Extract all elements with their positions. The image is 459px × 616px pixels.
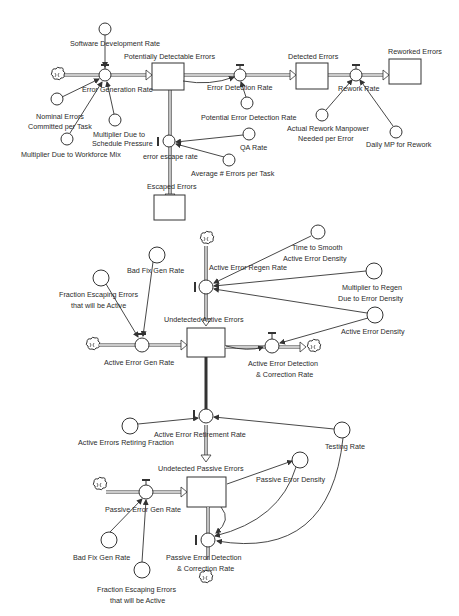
label-error-detection-rate: Error Detection Rate [207,83,273,92]
label-passive-error-detection-1: Passive Error Detection [166,553,242,562]
aux-multiplier-workforce-mix[interactable] [61,133,73,145]
label-active-error-density: Active Error Density [341,327,405,336]
label-potential-error-detection-rate: Potential Error Detection Rate [201,113,296,122]
label-software-development-rate: Software Development Rate [70,39,160,48]
label-time-to-smooth-2: Active Error Density [283,254,347,263]
label-error-escape-rate: error escape rate [143,152,198,161]
label-multiplier-regen-1: Multiplier to Regen [342,283,402,292]
valve-active-error-detection-rate[interactable] [265,332,279,353]
valve-error-escape-rate[interactable] [157,135,175,147]
label-fraction-escaping-1: Fraction Escaping Errors [59,290,138,299]
label-reworked-errors: Reworked Errors [388,47,442,56]
label-multiplier-regen-2: Due to Error Density [338,294,404,303]
aux-passive-error-density[interactable] [292,452,308,468]
label-passive-error-detection-2: & Correction Rate [177,564,234,573]
cloud-regen-source-icon [200,231,214,244]
valve-error-detection-rate[interactable] [234,64,246,81]
label-active-error-detection-1: Active Error Detection [248,359,318,368]
valve-passive-error-detection-rate[interactable] [195,533,215,547]
aux-active-errors-retiring-fraction[interactable] [122,418,138,434]
aux-testing-rate[interactable] [334,422,350,438]
stock-potentially-detectable-errors[interactable] [152,63,184,90]
valve-active-error-retirement-rate[interactable] [193,409,213,423]
label-nominal-errors-1: Nominal Errors [36,112,84,121]
label-nominal-errors-2: Committed per Task [28,122,92,131]
aux-qa-rate[interactable] [243,128,255,140]
stock-flow-diagram: Software Development Rate Potentially De… [0,0,459,616]
label-multiplier-workforce-mix: Multiplier Due to Workforce Mix [21,150,121,159]
aux-actual-rework-manpower[interactable] [316,109,328,121]
stock-undetected-active-errors[interactable] [187,328,225,357]
label-active-errors-retiring-fraction: Active Errors Retiring Fraction [78,438,174,447]
aux-fraction-escaping-passive[interactable] [134,562,150,578]
label-active-error-detection-2: & Correction Rate [256,370,313,379]
stock-detected-errors[interactable] [296,63,328,89]
aux-multiplier-regen[interactable] [366,263,382,279]
label-testing-rate: Testing Rate [325,442,365,451]
valve-active-error-regen-rate[interactable] [194,280,213,294]
aux-average-errors-per-task[interactable] [223,154,235,166]
label-undetected-passive-errors: Undetected Passive Errors [158,464,244,473]
aux-multiplier-schedule-pressure[interactable] [109,114,121,126]
label-fraction-escaping-2: that will be Active [71,301,126,310]
label-rework-rate: Rework Rate [338,84,380,93]
label-fraction-escaping-passive-1: Fraction Escaping Errors [97,585,176,594]
cloud-source-icon [51,67,65,80]
label-time-to-smooth-1: Time to Smooth [292,243,342,252]
label-multiplier-schedule-2: Schedule Pressure [92,139,153,148]
cloud-active-gen-source-icon [86,337,100,350]
label-actual-rework-1: Actual Rework Manpower [287,124,369,133]
label-active-error-gen-rate: Active Error Gen Rate [104,358,174,367]
label-active-error-regen-rate: Active Error Regen Rate [209,263,287,272]
aux-bad-fix-gen-rate[interactable] [149,247,165,263]
label-daily-mp-rework: Daily MP for Rework [366,140,432,149]
label-potentially-detectable-errors: Potentially Detectable Errors [124,52,215,61]
stock-undetected-passive-errors[interactable] [187,477,226,507]
label-qa-rate: QA Rate [240,143,267,152]
label-actual-rework-2: Needed per Error [298,134,354,143]
cloud-passive-gen-source-icon [93,477,107,490]
aux-active-error-density[interactable] [367,307,383,323]
label-average-errors-per-task: Average # Errors per Task [191,169,275,178]
label-undetected-active-errors: Undetected Active Errors [164,315,244,324]
aux-daily-mp-rework[interactable] [390,126,402,138]
valve-passive-error-gen-rate[interactable] [139,479,153,499]
aux-potential-error-detection-rate[interactable] [241,97,253,109]
label-multiplier-schedule-1: Multiplier Due to [93,130,145,139]
aux-software-development-rate[interactable] [99,23,111,35]
label-detected-errors: Detected Errors [288,52,339,61]
label-error-generation-rate: Error Generation Rate [82,85,153,94]
aux-fraction-escaping-active[interactable] [93,270,109,286]
stock-escaped-errors[interactable] [154,195,185,220]
label-bad-fix-gen-rate-passive: Bad Fix Gen Rate [73,553,130,562]
label-passive-error-gen-rate: Passive Error Gen Rate [105,505,181,514]
label-passive-error-density: Passive Error Density [256,475,326,484]
cloud-active-detection-sink-icon [307,339,321,352]
valve-rework-rate[interactable] [350,64,362,81]
aux-bad-fix-gen-rate-passive[interactable] [101,532,117,548]
label-fraction-escaping-passive-2: that will be Active [110,596,165,605]
label-escaped-errors: Escaped Errors [147,182,197,191]
stock-reworked-errors[interactable] [389,59,421,84]
aux-time-to-smooth[interactable] [311,225,325,239]
label-bad-fix-gen-rate: Bad Fix Gen Rate [127,266,184,275]
aux-nominal-errors-committed[interactable] [51,93,63,105]
